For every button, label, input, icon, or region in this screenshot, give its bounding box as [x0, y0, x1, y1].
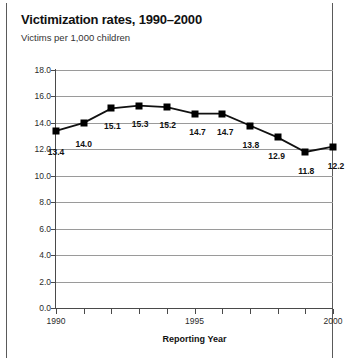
y-axis-tick-mark — [51, 123, 55, 124]
x-axis-tick-label: 1990 — [47, 316, 66, 326]
data-point-label: 14.7 — [189, 127, 206, 137]
x-axis-tick-mark — [333, 309, 334, 314]
data-point-label: 12.9 — [268, 151, 285, 161]
x-axis-tick-mark — [84, 309, 85, 314]
x-axis-tick-mark — [222, 309, 223, 314]
data-point-label: 11.8 — [298, 166, 314, 176]
data-point-label: 15.3 — [132, 119, 149, 129]
x-axis-tick-mark — [195, 309, 196, 314]
y-axis-tick-mark — [51, 176, 55, 177]
y-axis-tick-mark — [51, 202, 55, 203]
x-axis-tick-mark — [139, 309, 140, 314]
data-point-marker — [80, 119, 87, 126]
chart-figure: Victimization rates, 1990–2000 Victims p… — [6, 3, 333, 358]
y-axis-tick-mark — [51, 308, 55, 309]
data-point-marker — [330, 143, 337, 150]
data-point-label: 13.8 — [243, 140, 260, 150]
x-axis-tick-mark — [56, 309, 57, 314]
chart-subtitle: Victims per 1,000 children — [21, 32, 130, 43]
y-axis-tick-label: 18.0 — [34, 65, 51, 75]
x-axis-title: Reporting Year — [56, 334, 333, 344]
x-axis-tick-label: 2000 — [324, 316, 343, 326]
y-axis-tick-labels: 18.016.014.012.010.08.06.04.02.00.0 — [7, 70, 51, 308]
data-point-marker — [302, 148, 309, 155]
data-point-marker — [108, 105, 115, 112]
y-axis-tick-mark — [51, 229, 55, 230]
data-point-marker — [163, 104, 170, 111]
data-point-marker — [191, 110, 198, 117]
plot-area: 13.414.015.115.315.214.714.713.812.911.8… — [56, 70, 333, 308]
y-axis-tick-mark — [51, 282, 55, 283]
x-axis-tick-mark — [278, 309, 279, 314]
x-axis-tick-mark — [305, 309, 306, 314]
data-point-marker — [219, 110, 226, 117]
data-point-label: 15.2 — [160, 120, 177, 130]
data-point-marker — [136, 102, 143, 109]
series-line-victimization-rate — [56, 70, 333, 308]
data-point-marker — [246, 122, 253, 129]
y-axis-tick-label: 4.0 — [39, 250, 51, 260]
x-axis-tick-labels: 199019952000 — [56, 316, 333, 328]
y-axis-tick-label: 2.0 — [39, 277, 51, 287]
x-axis-tick-mark — [111, 309, 112, 314]
data-point-marker — [274, 134, 281, 141]
data-point-label: 13.4 — [48, 147, 65, 157]
data-point-marker — [53, 127, 60, 134]
y-axis-tick-label: 16.0 — [34, 91, 51, 101]
data-point-label: 15.1 — [104, 121, 121, 131]
y-axis-tick-label: 8.0 — [39, 197, 51, 207]
y-axis-tick-label: 14.0 — [34, 118, 51, 128]
x-axis-tick-marks — [56, 309, 333, 315]
x-axis-tick-mark — [167, 309, 168, 314]
y-axis-tick-label: 0.0 — [39, 303, 51, 313]
y-axis-tick-mark — [51, 96, 55, 97]
data-point-label: 14.7 — [217, 127, 234, 137]
chart-title: Victimization rates, 1990–2000 — [21, 12, 202, 27]
data-point-label: 14.0 — [75, 139, 92, 149]
y-axis-tick-mark — [51, 70, 55, 71]
y-axis-tick-label: 10.0 — [34, 171, 51, 181]
x-axis-tick-mark — [250, 309, 251, 314]
data-point-label: 12.2 — [328, 161, 345, 171]
y-axis-tick-label: 6.0 — [39, 224, 51, 234]
y-axis-tick-mark — [51, 255, 55, 256]
x-axis-tick-label: 1995 — [185, 316, 204, 326]
